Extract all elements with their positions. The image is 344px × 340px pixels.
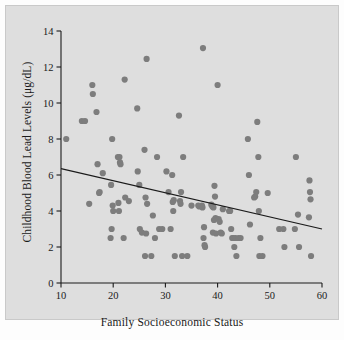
data-point: [255, 154, 261, 160]
data-point: [215, 82, 221, 88]
data-point: [280, 226, 286, 232]
data-point: [110, 208, 116, 214]
data-point: [237, 235, 243, 241]
data-point: [86, 201, 92, 207]
data-point: [247, 221, 253, 227]
data-point: [142, 253, 148, 259]
data-point: [163, 168, 169, 174]
data-point: [107, 235, 113, 241]
data-point: [126, 198, 132, 204]
data-point: [117, 161, 123, 167]
data-point: [97, 189, 103, 195]
data-point: [150, 212, 156, 218]
data-point: [231, 244, 237, 250]
data-point: [135, 168, 141, 174]
data-point: [257, 235, 263, 241]
data-point: [159, 226, 165, 232]
y-tick-label: 12: [43, 62, 54, 73]
y-tick-label: 4: [48, 206, 54, 217]
data-point: [184, 253, 190, 259]
data-point: [199, 204, 205, 210]
data-point: [115, 200, 121, 206]
data-point: [108, 182, 114, 188]
data-point: [202, 244, 208, 250]
y-tick-label: 2: [48, 242, 53, 253]
data-point: [170, 199, 176, 205]
data-point: [251, 194, 257, 200]
y-tick-label: 10: [43, 98, 54, 109]
data-point: [170, 208, 176, 214]
x-tick-label: 30: [160, 290, 171, 301]
data-point: [122, 77, 128, 83]
data-point: [265, 190, 271, 196]
data-point: [177, 201, 183, 207]
data-point: [148, 253, 154, 259]
x-tick-label: 60: [317, 290, 328, 301]
data-point: [217, 219, 223, 225]
y-tick-label: 14: [43, 26, 54, 37]
data-point: [176, 113, 182, 119]
x-tick-label: 20: [108, 290, 119, 301]
data-point: [94, 161, 100, 167]
data-points-group: [63, 45, 314, 259]
data-point: [142, 194, 148, 200]
x-axis-label: Family Socioeconomic Status: [0, 316, 344, 328]
data-point: [306, 177, 312, 183]
data-point: [188, 203, 194, 209]
data-point: [308, 253, 314, 259]
data-point: [219, 230, 225, 236]
data-point: [245, 136, 251, 142]
data-point: [109, 226, 115, 232]
data-point: [89, 82, 95, 88]
data-point: [307, 196, 313, 202]
data-point: [82, 118, 88, 124]
data-point: [281, 244, 287, 250]
data-point: [100, 170, 106, 176]
data-point: [292, 226, 298, 232]
data-point: [307, 189, 313, 195]
data-point: [144, 201, 150, 207]
plot-canvas: 02468101214102030405060: [0, 0, 344, 340]
data-point: [143, 230, 149, 236]
data-point: [212, 194, 218, 200]
data-point: [116, 154, 122, 160]
data-point: [116, 208, 122, 214]
data-point: [259, 253, 265, 259]
data-point: [169, 172, 175, 178]
data-point: [121, 235, 127, 241]
data-point: [295, 212, 301, 218]
data-point: [228, 226, 234, 232]
data-point: [211, 183, 217, 189]
y-axis-label: Childhood Blood Lead Levels (μg/dL): [21, 12, 33, 292]
data-point: [306, 214, 312, 220]
data-point: [152, 235, 158, 241]
data-point: [296, 244, 302, 250]
data-point: [134, 105, 140, 111]
x-tick-label: 50: [265, 290, 276, 301]
data-point: [200, 45, 206, 51]
data-point: [93, 109, 99, 115]
data-point: [256, 208, 262, 214]
data-point: [90, 91, 96, 97]
data-point: [210, 204, 216, 210]
scatter-plot-figure: 02468101214102030405060 Childhood Blood …: [0, 0, 344, 340]
data-point: [168, 226, 174, 232]
data-point: [178, 189, 184, 195]
tick-labels-group: 02468101214102030405060: [43, 26, 327, 301]
data-point: [293, 154, 299, 160]
trendline: [61, 169, 322, 229]
data-point: [110, 203, 116, 209]
data-point: [233, 253, 239, 259]
y-tick-label: 8: [48, 134, 53, 145]
data-point: [201, 224, 207, 230]
data-point: [246, 172, 252, 178]
data-point: [141, 147, 147, 153]
trendline-group: [61, 169, 322, 229]
data-point: [154, 154, 160, 160]
x-tick-label: 40: [212, 290, 223, 301]
x-tick-label: 10: [56, 290, 67, 301]
data-point: [144, 56, 150, 62]
data-point: [172, 253, 178, 259]
data-point: [109, 136, 115, 142]
data-point: [63, 136, 69, 142]
